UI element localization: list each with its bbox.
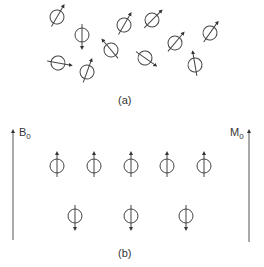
spin-random (139, 6, 166, 33)
panel-a-random-spins (45, 2, 223, 84)
spin-random (132, 46, 160, 71)
spin-down (179, 205, 193, 229)
spin-up (50, 153, 64, 177)
spin-random (75, 24, 89, 48)
spin-random (77, 57, 98, 84)
b0-label-sub: 0 (26, 132, 30, 141)
b0-label: B0 (19, 126, 31, 138)
caption-b: (b) (118, 247, 131, 259)
spin-diagram (0, 0, 264, 267)
spin-random (46, 54, 72, 72)
spin-random (112, 10, 136, 38)
m0-label-sub: 0 (239, 132, 243, 141)
spin-random (186, 51, 204, 77)
spin-up (160, 153, 174, 177)
spin-random (97, 36, 123, 63)
spin-up (197, 153, 211, 177)
m0-label: M0 (230, 126, 244, 138)
spin-up (87, 153, 101, 177)
spin-up (124, 153, 138, 177)
spin-random (163, 29, 189, 56)
spin-down (124, 205, 138, 229)
spin-random (198, 18, 223, 46)
caption-a: (a) (118, 94, 131, 106)
spin-random (45, 2, 69, 30)
m0-label-main: M (230, 126, 239, 138)
panel-b-aligned-spins (13, 131, 249, 242)
spin-down (68, 205, 82, 229)
